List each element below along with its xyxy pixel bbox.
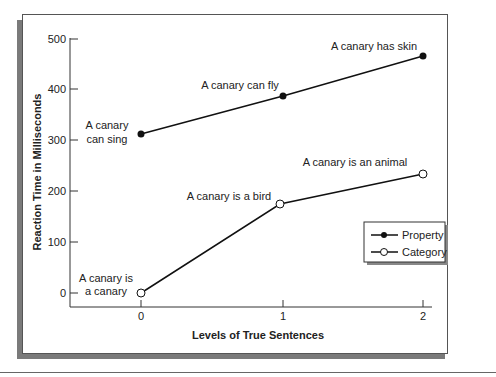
chart: 500 400 300 200 100 0 0 1 2 Levels of Tr… [0,0,496,377]
annotation-is-bird: A canary is a bird [187,190,271,202]
category-point-1 [276,200,284,208]
annotation-is-canary-line2: a canary [85,285,128,297]
y-tick-200: 200 [48,185,66,197]
y-tick-300: 300 [48,134,66,146]
y-tick-100: 100 [48,236,66,248]
category-point-2 [419,170,427,178]
category-point-0 [137,289,145,297]
property-point-2 [420,53,427,60]
y-tick-500: 500 [48,33,66,45]
legend-property: Property [402,229,444,241]
legend-open-circle-icon [381,249,388,256]
x-tick-0: 0 [138,310,144,322]
x-ticks: 0 1 2 [138,300,426,322]
annotation-is-animal: A canary is an animal [303,156,408,168]
legend-category: Category [402,246,447,258]
annotation-is-canary-line1: A canary is [79,272,133,284]
property-point-1 [280,93,287,100]
y-tick-0: 0 [60,287,66,299]
annotation-can-sing-line1: A canary [86,119,129,131]
annotation-can-sing-line2: can sing [87,133,128,145]
property-point-0 [138,131,145,138]
y-ticks: 500 400 300 200 100 0 [48,33,78,299]
annotation-has-skin: A canary has skin [331,40,417,52]
x-tick-2: 2 [420,310,426,322]
y-tick-400: 400 [48,83,66,95]
annotation-can-fly: A canary can fly [201,79,279,91]
legend: Property Category [364,222,448,265]
x-axis-title: Levels of True Sentences [192,329,324,341]
y-axis-title: Reaction Time in Milliseconds [31,94,43,251]
legend-filled-circle-icon [381,232,387,238]
x-tick-1: 1 [280,310,286,322]
